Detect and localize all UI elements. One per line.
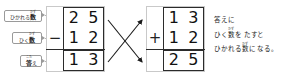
explanation-line-3-b: に [249,46,256,53]
explanation-line-2-c: たすと [244,32,265,39]
explanation-line-3-a: ひかれる [214,46,242,53]
explanation-line-3: ひかれる かず 数 に なる。 [214,43,278,53]
explanation-line-2: ひく かず 数 を たすと [214,28,278,38]
explanation-line-3-c: なる。 [257,46,278,53]
explanation-line-1: 答えに [214,17,278,24]
explanation-line-2-b: を [235,32,242,39]
explanation-line-2-kanji: かず 数 [228,28,235,38]
diagram-root: ひかれる かず 数 ひく かず 数 こた 答 え [0,0,281,77]
explanation-line-2-a: ひく [214,32,228,39]
explanation-line-3-kanji: かず 数 [242,43,249,53]
explanation-text: 答えに ひく かず 数 を たすと ひかれる かず 数 に なる。 [214,17,278,57]
explanation-line-1-text: 答えに [214,17,235,24]
